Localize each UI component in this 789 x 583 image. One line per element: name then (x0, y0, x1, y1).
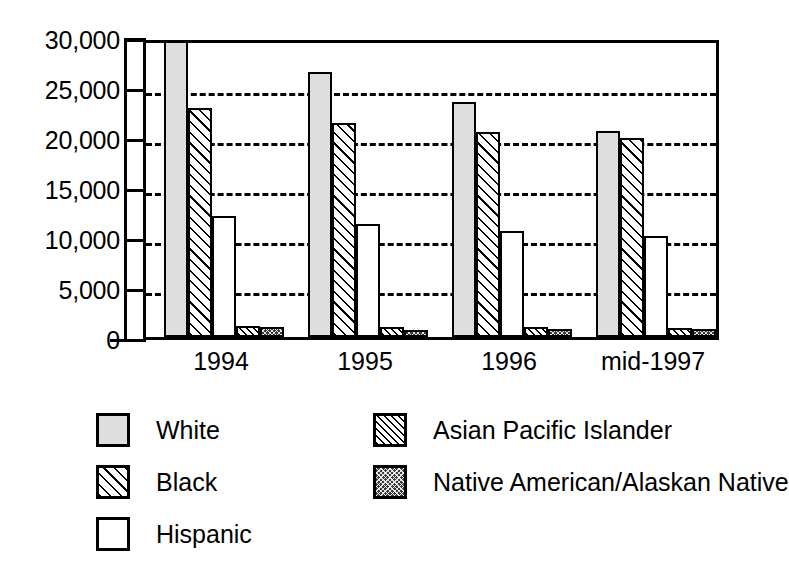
legend-column-right: Asian Pacific IslanderNative American/Al… (373, 404, 789, 508)
x-axis-labels: 199419951996mid-1997 (143, 346, 719, 380)
bar (692, 329, 716, 337)
bar (356, 224, 380, 337)
y-tick-mark (126, 189, 144, 192)
legend-item[interactable]: Hispanic (96, 508, 252, 560)
y-tick-label: 15,000 (2, 178, 120, 203)
chart-legend: WhiteBlackHispanic Asian Pacific Islande… (96, 404, 736, 564)
x-tick-label: mid-1997 (601, 346, 705, 376)
y-tick-label: 0 (2, 328, 120, 353)
legend-item-label: Black (156, 468, 217, 496)
x-tick-label: 1996 (481, 346, 537, 376)
y-tick-label: 5,000 (2, 278, 120, 303)
bar (332, 123, 356, 337)
bar (500, 231, 524, 337)
y-tick-mark (126, 89, 144, 92)
bar (644, 236, 668, 337)
legend-item-label: White (156, 416, 220, 444)
y-tick-label: 25,000 (2, 78, 120, 103)
legend-column-left: WhiteBlackHispanic (96, 404, 252, 560)
bar (164, 43, 188, 337)
legend-item-label: Hispanic (156, 520, 252, 548)
bar-group (434, 43, 578, 337)
legend-item[interactable]: Native American/Alaskan Native (373, 456, 789, 508)
legend-swatch-icon (96, 413, 130, 447)
y-axis-labels: 30,00025,00020,00015,00010,0005,0000 (0, 30, 120, 350)
legend-swatch-icon (373, 465, 407, 499)
y-tick-label: 20,000 (2, 128, 120, 153)
legend-item[interactable]: Asian Pacific Islander (373, 404, 789, 456)
bar (668, 328, 692, 337)
bar (452, 102, 476, 337)
x-tick-label: 1994 (193, 346, 249, 376)
bar (212, 216, 236, 337)
legend-swatch-icon (96, 517, 130, 551)
bar (260, 327, 284, 338)
bar (404, 330, 428, 338)
y-tick-mark (126, 139, 144, 142)
bar (476, 132, 500, 337)
y-tick-mark (126, 339, 144, 342)
bar-group (290, 43, 434, 337)
bar (548, 329, 572, 337)
legend-swatch-icon (373, 413, 407, 447)
legend-swatch-icon (96, 465, 130, 499)
bar (524, 327, 548, 338)
bar (308, 72, 332, 337)
y-tick-mark (126, 39, 144, 42)
bars-layer (146, 43, 716, 337)
y-tick-mark (126, 289, 144, 292)
legend-item-label: Asian Pacific Islander (433, 416, 672, 444)
bar (620, 138, 644, 337)
bar (596, 131, 620, 337)
x-tick-label: 1995 (337, 346, 393, 376)
legend-item[interactable]: White (96, 404, 252, 456)
y-tick-label: 30,000 (2, 28, 120, 53)
bar (188, 108, 212, 337)
bar (380, 327, 404, 337)
y-tick-mark (126, 239, 144, 242)
bar (236, 326, 260, 337)
legend-item-label: Native American/Alaskan Native (433, 468, 789, 496)
bar-group (578, 43, 716, 337)
bar-group (146, 43, 290, 337)
y-tick-label: 10,000 (2, 228, 120, 253)
legend-item[interactable]: Black (96, 456, 252, 508)
plot-area (143, 40, 719, 340)
